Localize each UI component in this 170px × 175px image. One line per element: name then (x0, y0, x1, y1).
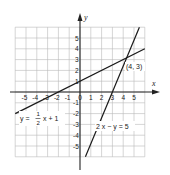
y-tick-label: 4 (75, 45, 79, 52)
y-tick-label: -1 (73, 99, 79, 106)
y-axis-label: y (83, 13, 88, 22)
x-tick-label: 5 (132, 94, 136, 101)
x-tick-label: 4 (121, 94, 125, 101)
x-tick-label: -1 (65, 94, 71, 101)
y-tick-label: -4 (73, 132, 79, 139)
x-axis-arrow-icon (152, 90, 160, 95)
x-tick-label: 2 (100, 94, 104, 101)
y-tick-label: 2 (75, 67, 79, 74)
x-tick-label: -5 (22, 94, 28, 101)
y-tick-label: 5 (75, 35, 79, 42)
eq2-label: 2 x − y = 5 (96, 123, 129, 131)
x-tick-label: 1 (89, 94, 93, 101)
coordinate-graph: x y -5-4-3-2-101234554321-1-2-3-4-5 (4, … (0, 0, 170, 175)
y-axis-arrow-icon (78, 13, 83, 21)
x-tick-label: -4 (32, 94, 38, 101)
x-tick-label: -2 (54, 94, 60, 101)
y-tick-label: 3 (75, 56, 79, 63)
x-tick-label: 0 (78, 94, 82, 101)
eq1-lhs: y = (20, 115, 30, 123)
eq1-rhs: x + 1 (43, 115, 58, 122)
y-tick-label: -3 (73, 121, 79, 128)
intersection-label: (4, 3) (126, 63, 142, 71)
x-axis-label: x (151, 79, 156, 88)
y-tick-label: -2 (73, 110, 79, 117)
y-tick-label: -5 (73, 143, 79, 150)
